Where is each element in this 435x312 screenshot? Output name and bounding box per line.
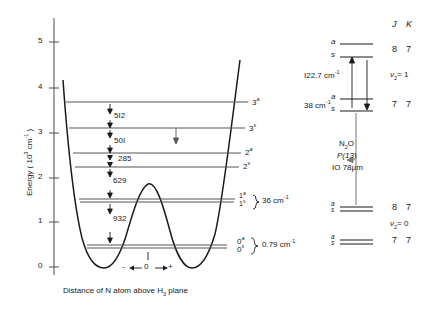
splitting-079-sup: -1 [290,238,295,244]
parity-label-upper-7-7-a: a [331,93,335,101]
y-axis-title-close: ) [25,129,34,134]
manifold-upper-eq: = 1 [397,70,408,79]
gap-label-285: 285 [118,155,131,163]
interval-arrow-38 [364,60,369,110]
level-label-3s-sup: s [253,122,256,128]
level-gap-arrows [108,104,113,243]
level-label-2s-sup: s [247,160,250,166]
y-tick-label-0: 0 [38,262,42,270]
jk-value-upper-8: 8 [392,45,397,54]
level-label-0s-sup: s [241,243,244,249]
laser-line-label: P(13) [337,152,357,160]
splitting-36-text: 36 cm [262,196,284,205]
x-axis-caption-main: Distance of N atom above H [63,286,163,295]
x-axis-origin-label: 0 [144,263,148,271]
potential-energy-diagram [0,0,300,300]
level-label-0s: 0s [237,244,244,254]
rotational-level-diagram [300,0,435,300]
parity-label-lower-7-7-s: s [331,240,334,247]
splitting-label-36: 36 cm-1 [262,195,289,205]
x-axis-minus-sign: - [122,263,125,271]
y-tick-label-4: 4 [38,83,42,91]
interval-122-sup: -1 [335,69,340,75]
parity-label-upper-7-7-s: s [331,105,335,113]
level-label-1s: 1s [239,199,245,207]
level-label-3s: 3s [249,123,256,133]
interval-38-sup: -1 [326,99,331,105]
jk-value-lower-7-k: 7 [406,236,411,245]
y-axis-title-main: Energy ( 10 [25,155,34,196]
manifold-lower-eq: = 0 [397,219,408,228]
y-tick-label-3: 3 [38,128,42,136]
level-label-2s: 2s [243,161,250,171]
manifold-label-v2-1: v2= 1 [390,71,408,81]
level-label-1a-sup: a [243,190,246,196]
laser-wavelength-value: IO 78 [332,163,352,172]
y-axis-title-exp2: -1 [23,134,29,139]
y-tick-label-2: 2 [38,173,42,181]
y-axis-title: Energy ( 103 cm-1 ) [24,129,34,196]
y-tick-label-1: 1 [38,217,42,225]
vibrational-level-lines [66,102,248,248]
gap-label-512: 5I2 [114,112,125,120]
level-label-3a-sup: a [256,96,259,102]
level-label-2a: 2a [245,147,253,157]
parity-label-upper-8-7-s: s [331,51,335,59]
jk-value-upper-8-k: 7 [406,45,411,54]
column-header-k: K [406,20,412,29]
x-axis-caption-tail: plane [166,286,188,295]
interval-38-text: 38 cm [304,101,326,110]
level-label-0a-sup: a [241,235,244,241]
potential-energy-curve [63,60,240,268]
gap-label-629: 629 [113,177,126,185]
interval-122-text: I22.7 cm [304,71,335,80]
parity-label-lower-8-7-s: s [331,207,334,214]
level-label-2a-sup: a [249,146,252,152]
splitting-36-sup: -1 [284,194,289,200]
laser-molecule-label: N2O [339,140,354,150]
jk-value-lower-8: 8 [392,203,397,212]
brace-0as [251,238,258,254]
jk-value-lower-7: 7 [392,236,397,245]
interval-arrow-122 [349,57,354,108]
transition-arrow [173,128,178,144]
splitting-label-079: 0.79 cm-1 [262,239,295,249]
x-axis-plus-sign: + [168,263,173,271]
jk-value-upper-7: 7 [392,100,397,109]
brace-1as [253,195,259,209]
interval-label-122: I22.7 cm-1 [304,70,340,80]
level-label-1s-sup: s [243,198,246,204]
jk-value-upper-7-k: 7 [406,100,411,109]
figure-root: 5 4 3 2 1 0 Energy ( 103 cm-1 ) 5I2 50I … [0,0,435,312]
laser-molecule-o: O [348,139,354,148]
column-header-j: J [392,20,397,29]
x-origin-marker [129,252,168,270]
parity-label-upper-8-7-a: a [331,38,335,46]
interval-label-38: 38 cm-1 [304,100,331,110]
y-axis-title-exp: 3 [23,152,29,155]
gap-label-501: 50I [114,137,125,145]
x-axis-caption: Distance of N atom above H3 plane [63,287,188,297]
gap-label-932: 932 [113,215,126,223]
laser-wavelength-label: IO 78μm [332,164,363,172]
y-axis-title-unit: cm [25,139,34,152]
level-label-3a: 3a [252,97,260,107]
manifold-label-v2-0: v2= 0 [390,220,408,230]
y-tick-label-5: 5 [38,37,42,45]
laser-wavelength-unit: μm [352,163,363,172]
splitting-079-text: 0.79 cm [262,240,290,249]
jk-value-lower-8-k: 7 [406,203,411,212]
